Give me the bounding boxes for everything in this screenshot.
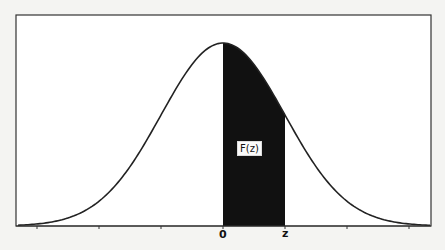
z-label: z (282, 227, 288, 240)
normal-distribution-diagram (0, 0, 445, 250)
f-z-label: F(z) (237, 141, 262, 156)
origin-label: 0 (219, 228, 227, 241)
